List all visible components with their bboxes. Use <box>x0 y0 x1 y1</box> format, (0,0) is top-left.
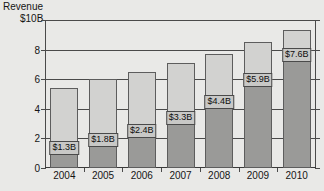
bar-value-label: $1.8B <box>88 133 118 147</box>
bar-group: $3.3B <box>167 20 195 168</box>
x-tick-mark <box>277 168 278 172</box>
y-tick-label: 0 <box>18 163 40 174</box>
x-tick-label: 2009 <box>247 170 269 181</box>
plot-area: 02468 $1.3B$1.8B$2.4B$3.3B$4.4B$5.9B$7.6… <box>45 20 316 168</box>
bar-group: $5.9B <box>244 20 272 168</box>
bar-value-label: $3.3B <box>166 111 196 125</box>
y-tick-label: 2 <box>18 133 40 144</box>
y-tick-mark-right <box>315 79 320 80</box>
x-tick-label: 2010 <box>286 170 308 181</box>
y-tick-mark <box>41 138 46 139</box>
bar-value-label: $2.4B <box>127 124 157 138</box>
x-tick-label: 2005 <box>92 170 114 181</box>
y-tick-label: 6 <box>18 74 40 85</box>
y-tick-mark <box>41 168 46 169</box>
x-tick-label: 2007 <box>169 170 191 181</box>
x-tick-label: 2008 <box>208 170 230 181</box>
y-tick-mark-right <box>315 20 320 21</box>
y-axis-right-line <box>315 20 316 168</box>
bar-group: $2.4B <box>128 20 156 168</box>
bar-group: $1.8B <box>89 20 117 168</box>
y-tick-mark-right <box>315 109 320 110</box>
y-tick-mark-right <box>315 138 320 139</box>
x-tick-label: 2004 <box>53 170 75 181</box>
x-tick-mark <box>122 168 123 172</box>
bar-group: $4.4B <box>205 20 233 168</box>
y-tick-label: 4 <box>18 103 40 114</box>
bar-value-label: $7.6B <box>282 48 312 62</box>
y-axis-line <box>45 20 46 168</box>
y-tick-mark <box>41 109 46 110</box>
x-tick-mark <box>200 168 201 172</box>
bar-highlight-segment <box>244 81 272 168</box>
x-tick-mark <box>84 168 85 172</box>
y-tick-mark <box>41 20 46 21</box>
y-tick-label: 8 <box>18 44 40 55</box>
y-axis-max-label: $10B <box>20 13 43 24</box>
bar-highlight-segment <box>167 119 195 168</box>
x-tick-mark <box>239 168 240 172</box>
y-tick-mark <box>41 50 46 51</box>
y-tick-mark-right <box>315 168 320 169</box>
y-axis-title: Revenue <box>3 1 43 12</box>
revenue-bar-chart: Revenue $10B 02468 $1.3B$1.8B$2.4B$3.3B$… <box>0 0 324 191</box>
y-tick-mark <box>41 79 46 80</box>
bar-highlight-segment <box>283 56 311 168</box>
bar-highlight-segment <box>205 103 233 168</box>
y-tick-mark-right <box>315 50 320 51</box>
bar-value-label: $1.3B <box>50 141 80 155</box>
x-tick-label: 2006 <box>131 170 153 181</box>
bar-value-label: $4.4B <box>204 95 234 109</box>
bar-group: $7.6B <box>283 20 311 168</box>
x-tick-mark <box>161 168 162 172</box>
bar-value-label: $5.9B <box>243 73 273 87</box>
bar-group: $1.3B <box>50 20 78 168</box>
